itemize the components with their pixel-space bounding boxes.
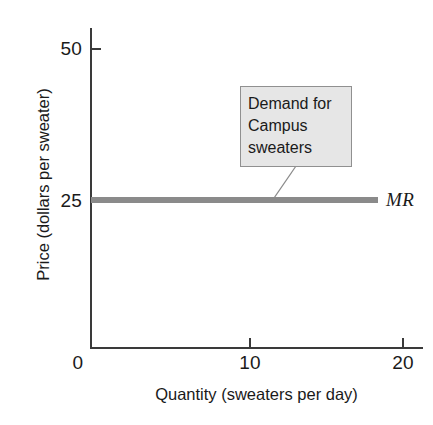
callout-line-3: sweaters <box>248 137 351 159</box>
y-tick-50 <box>92 48 101 50</box>
x-axis-line <box>90 347 423 349</box>
x-tick-label-10: 10 <box>220 352 280 374</box>
x-tick-label-20: 20 <box>373 352 433 374</box>
callout-leader-line <box>268 165 308 203</box>
x-tick-10 <box>249 338 251 347</box>
x-axis-title: Quantity (sweaters per day) <box>90 385 423 404</box>
callout-line-1: Demand for <box>248 93 351 115</box>
callout-line-2: Campus <box>248 115 351 137</box>
mr-series-label: MR <box>386 189 414 211</box>
y-axis-line <box>90 28 92 349</box>
chart-figure: 50 25 10 20 0 Price (dollars per sweater… <box>0 0 433 425</box>
y-axis-title: Price (dollars per sweater) <box>34 45 53 325</box>
x-tick-20 <box>402 338 404 347</box>
demand-callout-box: Demand for Campus sweaters <box>240 86 352 167</box>
mr-series-line <box>91 197 378 203</box>
origin-label: 0 <box>48 352 108 374</box>
